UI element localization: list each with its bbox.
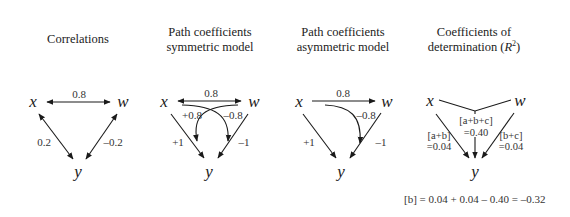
panel-title-line-2: determination (R2): [428, 39, 521, 54]
node-w: w: [381, 92, 393, 111]
edge-label-x-w: 0.8: [204, 87, 218, 99]
node-w: w: [514, 91, 526, 110]
panel-symmetric-model: Path coefficients symmetric model x w y …: [159, 25, 260, 181]
node-x: x: [425, 91, 434, 110]
edge-label-x-y: +1: [172, 136, 184, 148]
panel-title-line-2: symmetric model: [166, 40, 254, 54]
node-y: y: [72, 162, 82, 181]
panel-title-line-1: Coefficients of: [437, 25, 512, 39]
edge-label-w-y-value: =0.04: [499, 141, 524, 152]
panel-title-line-1: Path coefficients: [168, 25, 252, 39]
edge-label-w-y-name: [b+c]: [500, 130, 523, 141]
node-x: x: [159, 92, 168, 111]
diagram-canvas: Correlations x w y 0.8 0.2 –0.2 Path coe…: [0, 0, 570, 217]
edge-label-w-y: –1: [238, 136, 250, 148]
node-y: y: [203, 162, 213, 181]
edge-label-x-y-name: [a+b]: [428, 130, 451, 141]
edge-label-x-w: 0.8: [336, 87, 350, 99]
edge-label-indirect-w: –0.8: [222, 109, 243, 121]
edge-label-indirect: –0.8: [355, 109, 376, 121]
node-y: y: [335, 162, 345, 181]
panel-title-line-2: asymmetric model: [297, 40, 390, 54]
node-y: y: [469, 162, 479, 181]
node-x: x: [294, 92, 303, 111]
edge-label-joint-name: [a+b+c]: [459, 115, 492, 126]
edge-label-w-y: –0.2: [102, 136, 122, 148]
panel-coefficients-of-determination: Coefficients of determination (R2) x w y…: [404, 25, 545, 205]
edge-label-joint-value: =0.40: [464, 127, 488, 138]
panel-title: Correlations: [47, 32, 109, 46]
edge-x-via-w-to-y: [325, 105, 360, 143]
edge-label-x-y-value: =0.04: [427, 141, 452, 152]
edge-label-x-y: +1: [303, 136, 315, 148]
edge-label-indirect-x: +0.8: [182, 109, 202, 121]
edge-label-x-y: 0.2: [37, 136, 51, 148]
panel-title-line-1: Path coefficients: [301, 25, 385, 39]
edge-label-w-y: –1: [375, 136, 387, 148]
formula-text: [b] = 0.04 + 0.04 – 0.40 = –0.32: [404, 193, 545, 205]
node-x: x: [28, 92, 37, 111]
node-w: w: [117, 92, 129, 111]
joint-connector: [439, 100, 511, 111]
panel-correlations: Correlations x w y 0.8 0.2 –0.2: [28, 32, 129, 181]
edge-label-x-w: 0.8: [72, 88, 86, 100]
node-w: w: [248, 92, 260, 111]
panel-asymmetric-model: Path coefficients asymmetric model x w y…: [294, 25, 393, 181]
